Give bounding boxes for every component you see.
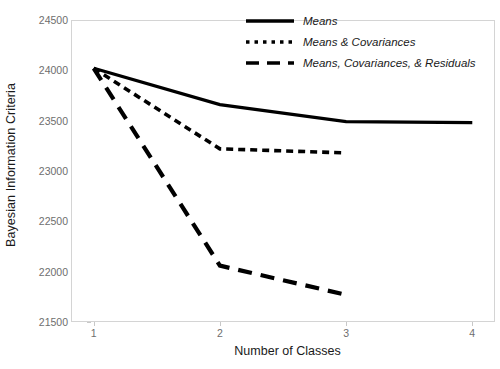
x-axis-tick-mark — [94, 322, 95, 326]
x-axis-tick-mark — [472, 322, 473, 326]
series-line — [94, 68, 346, 295]
x-axis-title-text: Number of Classes — [234, 344, 340, 358]
x-axis-tick-label: 2 — [200, 327, 240, 339]
legend-label-means: Means — [303, 15, 338, 27]
legend-swatch-dashed-icon — [245, 56, 295, 70]
x-axis-tick-mark — [346, 322, 347, 326]
y-axis-tick-labels: 21500220002250023000235002400024500 — [20, 0, 68, 369]
y-axis-title-text: Bayesian Information Criteria — [4, 83, 18, 247]
chart-legend: Means Means & Covariances Means, Covaria… — [245, 10, 493, 73]
y-axis-tick-label: 24000 — [22, 64, 68, 76]
legend-swatch-solid-icon — [245, 14, 295, 28]
x-axis-title: Number of Classes — [80, 344, 495, 358]
y-axis-tick-label: 24500 — [22, 14, 68, 26]
y-axis-tick-label: 22500 — [22, 215, 68, 227]
y-axis-tick-label: 23000 — [22, 165, 68, 177]
y-axis-title: Bayesian Information Criteria — [0, 0, 22, 330]
x-axis-tick-label: 3 — [326, 327, 366, 339]
y-axis-tick-label: 22000 — [22, 266, 68, 278]
series-line — [94, 68, 473, 122]
y-axis-tick-label: 21500 — [22, 316, 68, 328]
legend-label-means-covariances: Means & Covariances — [303, 36, 416, 48]
x-axis-tick-mark — [220, 322, 221, 326]
legend-item-means-covariances-residuals: Means, Covariances, & Residuals — [245, 52, 493, 73]
series-line — [94, 68, 346, 153]
y-axis-tick-mark — [87, 322, 91, 323]
legend-swatch-dotted-icon — [245, 35, 295, 49]
legend-item-means-covariances: Means & Covariances — [245, 31, 493, 52]
legend-item-means: Means — [245, 10, 493, 31]
x-axis-tick-label: 4 — [452, 327, 492, 339]
legend-label-means-covariances-residuals: Means, Covariances, & Residuals — [303, 57, 476, 69]
x-axis-tick-label: 1 — [74, 327, 114, 339]
y-axis-tick-label: 23500 — [22, 115, 68, 127]
bic-chart-figure: Bayesian Information Criteria 2150022000… — [0, 0, 500, 369]
